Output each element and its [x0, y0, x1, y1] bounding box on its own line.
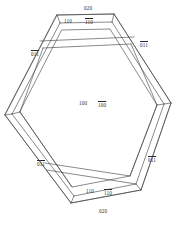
left-vertex-connector-a: [5, 114, 12, 115]
face-label-01bar1-lower-left: 011: [37, 162, 45, 167]
face-label-020-top: 020: [84, 6, 92, 11]
lower-right-face-outer-edge: [141, 103, 171, 190]
lower-left-face-inner-edge: [20, 112, 72, 187]
face-label-110-bottom: 110: [86, 189, 94, 194]
face-label-020-bottom: 020: [99, 209, 107, 214]
face-label-1bar10-bottom: 110: [104, 191, 112, 196]
top-strip-lower-edge: [40, 37, 134, 41]
lower-left-face-outer-edge: [5, 115, 71, 203]
right-vertex-connector-b: [157, 104, 164, 105]
top-band-edge-outer: [57, 14, 114, 15]
upper-right-face-right-edge: [114, 14, 171, 103]
face-label-1bar00-center: 100: [98, 103, 106, 108]
top-strip-lower-edge-2: [43, 44, 131, 48]
top-band-right-connector: [112, 14, 114, 22]
upper-left-face-left-edge: [5, 15, 57, 115]
face-label-01bar1bar-right: 011: [140, 43, 148, 48]
bottom-band-left-connector: [71, 196, 74, 203]
right-vertex-connector-a: [164, 103, 171, 104]
top-band-left-connector: [57, 15, 60, 23]
bottom-strip-upper-edge: [47, 170, 136, 184]
face-label-01bar1-lower-right: 011: [148, 158, 156, 163]
crystal-diagram-figure: 020 110 110 011 011 100 100 011 011 110 …: [0, 0, 177, 225]
lower-right-face-mid-edge: [136, 104, 164, 184]
upper-left-face-mid-edge: [12, 23, 60, 114]
bottom-band-right-connector: [136, 184, 141, 190]
lower-left-face-mid-edge: [12, 114, 74, 196]
face-label-100-center: 100: [79, 101, 87, 106]
upper-right-face-mid-edge: [112, 22, 164, 104]
face-label-1bar10-top: 110: [85, 20, 93, 25]
lower-right-face-inner-edge: [130, 105, 157, 176]
face-label-01bar1-left: 011: [31, 52, 39, 57]
face-label-110-top: 110: [64, 19, 72, 24]
